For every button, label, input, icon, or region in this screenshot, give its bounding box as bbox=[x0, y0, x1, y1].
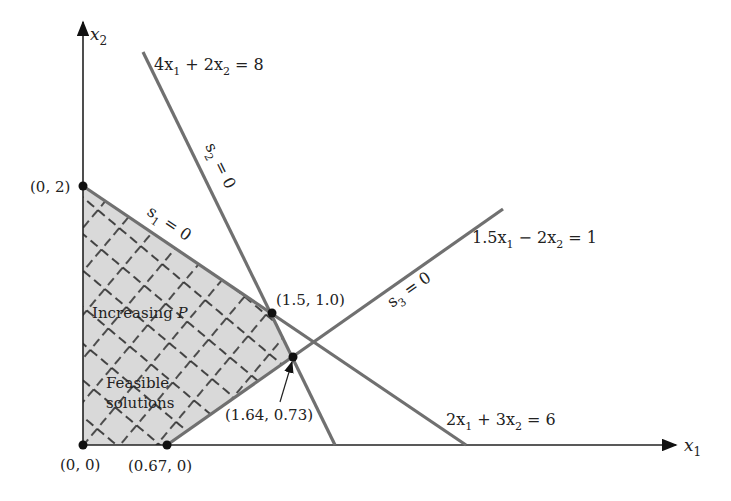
vertex-label-0-0: (0, 0) bbox=[60, 456, 100, 474]
equation-c2: 4x1 + 2x2 = 8 bbox=[154, 55, 264, 78]
x2-axis-label: x2 bbox=[90, 24, 107, 48]
lp-feasible-region-diagram: x2 x1 4x1 + 2x2 = 8 1.5x1 − 2x2 = 1 2x1 … bbox=[0, 0, 731, 501]
vertex-label-0-2: (0, 2) bbox=[30, 178, 70, 196]
x1-axis-label: x1 bbox=[684, 435, 701, 459]
increasing-p-label: Increasing P bbox=[92, 304, 189, 322]
vertex-label-067-0: (0.67, 0) bbox=[128, 457, 192, 475]
vertex-15-10 bbox=[268, 309, 277, 318]
vertex-0-0 bbox=[79, 441, 88, 450]
feasible-label-line2: solutions bbox=[106, 394, 174, 412]
vertex-label-164-073: (1.64, 0.73) bbox=[225, 406, 313, 424]
pointer-arrow bbox=[280, 362, 292, 402]
feasible-label-line1: Feasible bbox=[106, 374, 169, 392]
vertex-label-15-10: (1.5, 1.0) bbox=[276, 291, 345, 309]
equation-c3: 1.5x1 − 2x2 = 1 bbox=[472, 228, 597, 251]
vertex-0-2 bbox=[79, 182, 88, 191]
equation-c1: 2x1 + 3x2 = 6 bbox=[446, 410, 556, 433]
vertex-164-073 bbox=[289, 353, 298, 362]
vertex-067-0 bbox=[163, 441, 172, 450]
slack-label-s2: s2 = 0 bbox=[198, 139, 240, 193]
